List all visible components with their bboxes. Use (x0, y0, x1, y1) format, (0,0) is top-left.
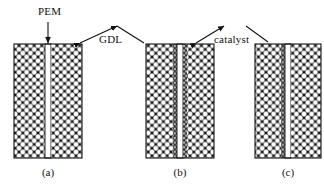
panel-b (146, 44, 214, 158)
catalyst-leader-right (246, 26, 268, 42)
panel-b-membrane (177, 44, 183, 158)
caption-panel-b: (b) (166, 167, 194, 178)
panel-b-catalyst-right (183, 44, 187, 158)
panel-b-gdl-right (187, 44, 214, 158)
panel-c (255, 44, 321, 158)
panel-a (14, 44, 82, 158)
panel-b-gdl-left (146, 44, 173, 158)
caption-panel-a: (a) (34, 167, 62, 178)
panel-a-gdl-right (51, 44, 82, 158)
panel-a-membrane (45, 44, 51, 158)
label-catalyst: catalyst (214, 34, 249, 45)
panel-c-gdl-right (291, 44, 321, 158)
panel-a-gdl-left (14, 44, 45, 158)
label-gdl: GDL (99, 34, 122, 45)
panel-c-gdl-left (255, 44, 281, 158)
panel-c-membrane (285, 44, 291, 158)
label-pem: PEM (38, 6, 61, 17)
caption-panel-c: (c) (274, 167, 302, 178)
panel-c-catalyst-left (281, 44, 285, 158)
figure-canvas: PEM GDL catalyst (a) (b) (c) (0, 0, 324, 195)
panel-b-catalyst-left (173, 44, 177, 158)
